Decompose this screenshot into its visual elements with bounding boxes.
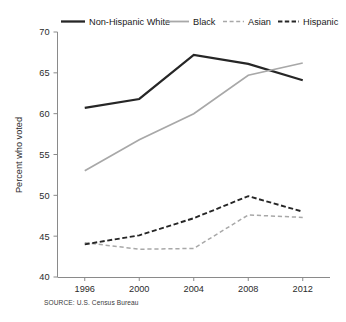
y-tick-label: 70 xyxy=(39,27,49,37)
x-axis-ticks: 19962000200420082012 xyxy=(75,277,313,294)
legend-label: Asian xyxy=(248,17,271,27)
legend-item-asian: Asian xyxy=(223,17,271,27)
chart-legend: Non-Hispanic White Black Asian Hispanic xyxy=(61,17,339,27)
x-tick-label: 2004 xyxy=(184,284,204,294)
y-axis-ticks: 40455055606570 xyxy=(39,27,57,282)
y-tick-label: 45 xyxy=(39,232,49,242)
y-tick-label: 55 xyxy=(39,150,49,160)
legend-label: Non-Hispanic White xyxy=(89,17,170,27)
y-tick-label: 40 xyxy=(39,272,49,282)
legend-label: Black xyxy=(193,17,216,27)
legend-label: Hispanic xyxy=(303,17,339,27)
source-note: SOURCE: U.S. Census Bureau xyxy=(44,299,139,306)
y-tick-label: 60 xyxy=(39,109,49,119)
y-axis-title: Percent who voted xyxy=(14,117,24,193)
series-line-hispanic xyxy=(85,196,303,244)
legend-item-hispanic: Hispanic xyxy=(278,17,339,27)
x-tick-label: 2008 xyxy=(238,284,258,294)
line-chart-svg: Non-Hispanic White Black Asian Hispanic … xyxy=(0,0,346,322)
series-line-asian xyxy=(85,215,303,249)
x-tick-label: 2012 xyxy=(293,284,313,294)
chart-figure: Non-Hispanic White Black Asian Hispanic … xyxy=(0,0,346,322)
y-tick-label: 50 xyxy=(39,191,49,201)
x-tick-label: 2000 xyxy=(129,284,149,294)
series-line-non-hispanic-white xyxy=(85,55,303,108)
y-tick-label: 65 xyxy=(39,68,49,78)
legend-item-non-hispanic-white: Non-Hispanic White xyxy=(61,17,170,27)
legend-item-black: Black xyxy=(165,17,216,27)
x-tick-label: 1996 xyxy=(75,284,95,294)
chart-series-group xyxy=(85,55,303,249)
series-line-black xyxy=(85,63,303,171)
